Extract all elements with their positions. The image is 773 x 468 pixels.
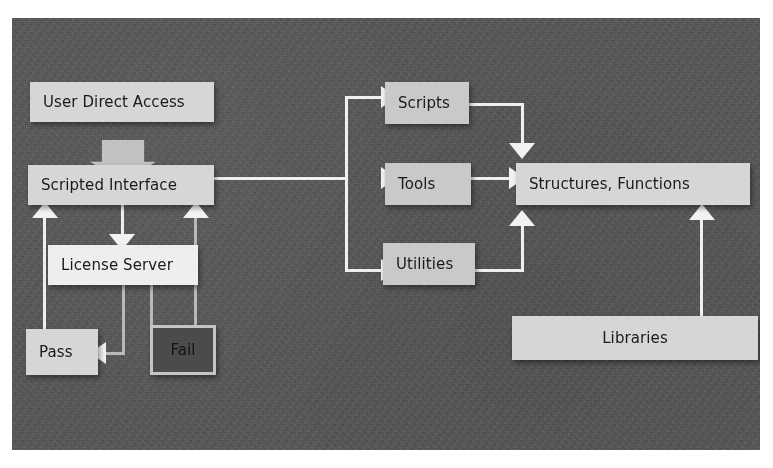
node-license-server[interactable]: License Server xyxy=(48,245,198,285)
node-label: Tools xyxy=(398,175,435,193)
node-label: Scripts xyxy=(398,94,450,112)
edge-scripts-down xyxy=(521,103,524,145)
arrowhead-utilities-into-structures xyxy=(509,210,535,226)
edge-utilities-to-right xyxy=(474,269,524,272)
node-tools[interactable]: Tools xyxy=(385,163,471,205)
node-label: Utilities xyxy=(396,255,453,273)
node-label: Pass xyxy=(39,343,73,361)
edge-pass-to-scripted-interface xyxy=(43,218,46,336)
arrowhead-libraries-into-structures xyxy=(689,204,715,220)
node-label: Scripted Interface xyxy=(41,176,177,194)
edge-utilities-up xyxy=(521,226,524,272)
node-fail[interactable]: Fail xyxy=(150,325,216,375)
edge-scripted-interface-to-license-server xyxy=(121,203,124,237)
node-label: Structures, Functions xyxy=(529,175,690,193)
edge-pass-feed-horizontal xyxy=(104,352,124,355)
edge-scripted-interface-to-branch-trunk xyxy=(212,177,348,180)
edge-libraries-to-structures xyxy=(700,220,703,320)
node-label: Fail xyxy=(170,341,195,359)
node-label: Libraries xyxy=(602,329,668,347)
node-label: User Direct Access xyxy=(43,93,185,111)
node-user-direct-access[interactable]: User Direct Access xyxy=(30,82,214,122)
arrowhead-scripts-into-structures xyxy=(509,143,535,159)
node-scripts[interactable]: Scripts xyxy=(385,82,469,124)
node-label: License Server xyxy=(61,256,173,274)
node-libraries[interactable]: Libraries xyxy=(512,316,758,360)
edge-trunk-to-utilities xyxy=(345,269,383,272)
node-utilities[interactable]: Utilities xyxy=(383,243,475,285)
edge-scripts-to-right xyxy=(468,103,524,106)
node-pass[interactable]: Pass xyxy=(26,329,98,375)
diagram-canvas: User Direct Access Scripted Interface Li… xyxy=(12,18,760,450)
edge-license-server-down-to-pass xyxy=(122,283,125,355)
node-structures-functions[interactable]: Structures, Functions xyxy=(516,163,750,205)
node-scripted-interface[interactable]: Scripted Interface xyxy=(28,165,214,205)
edge-branch-trunk-vertical xyxy=(345,96,348,272)
diagram-canvas-wrapper: User Direct Access Scripted Interface Li… xyxy=(0,0,773,468)
